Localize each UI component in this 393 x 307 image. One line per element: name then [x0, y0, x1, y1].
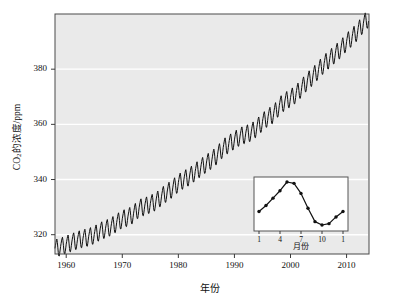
inset-marker	[299, 192, 302, 195]
y-axis-title: CO2的浓度/ppm	[9, 94, 23, 180]
inset-tick-label: 1	[335, 235, 351, 244]
y-tick-label: 340	[17, 174, 47, 184]
x-tick-label: 1990	[214, 260, 254, 270]
y-axis-title-suffix: 的浓度/ppm	[12, 104, 22, 154]
x-tick-label: 1960	[46, 260, 86, 270]
y-tick-label: 380	[17, 63, 47, 73]
x-axis-title: 年份	[160, 280, 260, 295]
inset-marker	[327, 222, 330, 225]
y-axis-title-prefix: CO	[12, 157, 22, 170]
seasonal-cycle-inset	[254, 177, 348, 234]
inset-tick-label: 4	[272, 235, 288, 244]
inset-marker	[320, 223, 323, 226]
x-axis-tick-marks	[66, 254, 346, 258]
inset-marker	[264, 204, 267, 207]
x-tick-label: 1980	[158, 260, 198, 270]
inset-marker	[334, 215, 337, 218]
y-axis-tick-marks	[51, 69, 55, 235]
keeling-curve-figure: CO2的浓度/ppm 年份 月份 19601970198019902000201…	[0, 0, 393, 307]
inset-marker	[313, 220, 316, 223]
inset-marker	[257, 210, 260, 213]
inset-marker	[271, 196, 274, 199]
x-tick-label: 2000	[271, 260, 311, 270]
inset-marker	[278, 189, 281, 192]
y-tick-label: 360	[17, 118, 47, 128]
inset-marker	[341, 210, 344, 213]
inset-tick-label: 1	[251, 235, 267, 244]
inset-tick-label: 7	[293, 235, 309, 244]
inset-marker	[285, 180, 288, 183]
inset-marker	[306, 207, 309, 210]
x-tick-label: 1970	[102, 260, 142, 270]
y-axis-title-subscript: 2	[15, 153, 23, 157]
inset-tick-label: 10	[314, 235, 330, 244]
x-tick-label: 2010	[327, 260, 367, 270]
inset-marker	[292, 182, 295, 185]
y-tick-label: 320	[17, 229, 47, 239]
